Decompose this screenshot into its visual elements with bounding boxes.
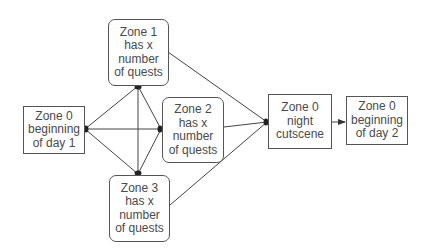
- node-line: of day 1: [33, 137, 76, 151]
- node-line: night: [287, 115, 313, 129]
- node-line: number: [173, 130, 214, 144]
- node-line: has x: [179, 117, 208, 131]
- node-zone0-day2: Zone 0 beginning of day 2: [346, 96, 408, 145]
- node-line: beginning: [351, 114, 403, 128]
- node-line: Zone 0: [358, 100, 395, 114]
- node-line: beginning: [28, 123, 80, 137]
- node-line: Zone 0: [281, 101, 318, 115]
- node-line: number: [119, 209, 160, 223]
- edge-zone2-zone3: [138, 129, 161, 174]
- node-line: of quests: [169, 144, 218, 158]
- node-line: cutscene: [276, 128, 324, 142]
- node-zone1: Zone 1 has x number of quests: [108, 19, 169, 86]
- node-line: Zone 1: [120, 26, 157, 40]
- edge-zone1-zone2: [138, 86, 161, 129]
- edge-zone2-night: [224, 122, 267, 127]
- edge-day1-zone1: [85, 86, 138, 129]
- node-line: Zone 3: [121, 182, 158, 196]
- node-zone0-day1: Zone 0 beginning of day 1: [23, 106, 85, 154]
- node-line: has x: [125, 195, 154, 209]
- node-zone0-night: Zone 0 night cutscene: [268, 94, 332, 149]
- node-line: has x: [124, 39, 153, 53]
- node-line: of day 2: [356, 127, 399, 141]
- node-line: of quests: [115, 222, 164, 236]
- edge-day1-zone3: [85, 129, 138, 174]
- node-line: of quests: [114, 66, 163, 80]
- node-line: Zone 2: [174, 103, 211, 117]
- node-zone2: Zone 2 has x number of quests: [162, 97, 224, 163]
- node-zone3: Zone 3 has x number of quests: [109, 175, 170, 242]
- node-line: Zone 0: [35, 110, 72, 124]
- node-line: number: [118, 53, 159, 67]
